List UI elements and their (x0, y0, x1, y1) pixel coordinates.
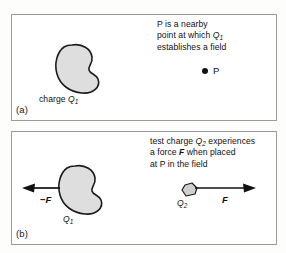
force-reaction-label: −F (40, 194, 51, 205)
charge-subscript: 1 (75, 98, 79, 105)
source-charge-symbol: Q (63, 214, 70, 224)
source-charge-subscript: 1 (70, 218, 74, 225)
panel-b-label: (b) (16, 228, 28, 239)
source-charge-q1-label: Q1 (63, 214, 73, 224)
panel-a-caption: P is a nearby point at which Q1 establis… (157, 19, 226, 53)
force-label: F (222, 194, 228, 205)
point-p-label: P (213, 65, 219, 76)
caption-b-line1-subscript: 2 (202, 140, 206, 147)
caption-a-line1: P is a nearby (157, 19, 208, 29)
test-charge-subscript: 2 (184, 202, 188, 209)
caption-b-line1-pre: test charge (150, 136, 196, 146)
caption-a-line2-pre: point at which (157, 30, 213, 40)
panel-a-label: (a) (16, 104, 28, 115)
caption-a-line3: establishes a field (157, 42, 226, 52)
caption-a-line2-subscript: 1 (219, 34, 223, 41)
caption-b-line3: at P in the field (150, 159, 208, 169)
point-p-dot (202, 68, 208, 74)
panel-b-caption: test charge Q2 experiences a force F whe… (150, 136, 255, 170)
test-charge-symbol: Q (177, 198, 184, 208)
caption-b-line2-post: when placed (184, 147, 235, 157)
caption-b-line2-pre: a force (150, 147, 179, 157)
charge-word: charge (39, 94, 68, 104)
physics-figure: (a) P is a nearby point at which Q1 esta… (0, 0, 286, 253)
charge-q1-label: charge Q1 (39, 94, 78, 104)
panel-a (11, 14, 277, 121)
test-charge-q2-label: Q2 (177, 198, 187, 208)
charge-symbol: Q (68, 94, 75, 104)
caption-b-line1-post: experiences (206, 136, 255, 146)
